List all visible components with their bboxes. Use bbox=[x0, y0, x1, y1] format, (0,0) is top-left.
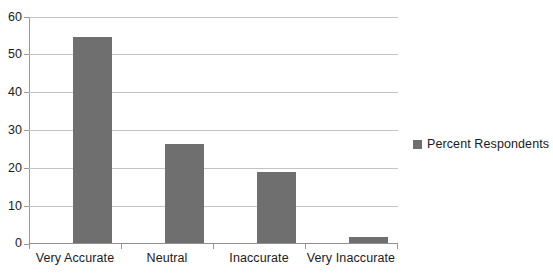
legend: Percent Respondents bbox=[413, 138, 549, 151]
x-axis-label-very-inaccurate: Very Inaccurate bbox=[301, 251, 401, 265]
bar-very-accurate[interactable] bbox=[73, 37, 112, 243]
bar-neutral[interactable] bbox=[165, 144, 204, 243]
x-axis-label-very-accurate: Very Accurate bbox=[29, 251, 121, 265]
x-axis-tick-mark-2 bbox=[213, 244, 214, 249]
bar-very-inaccurate[interactable] bbox=[349, 237, 388, 243]
y-axis-tick-label-10: 10 bbox=[0, 200, 22, 213]
plot-area bbox=[29, 17, 398, 243]
x-axis-tick-mark-3 bbox=[305, 244, 306, 249]
y-axis-tick-label-60: 60 bbox=[0, 11, 22, 24]
gridline-60 bbox=[29, 17, 398, 18]
y-axis-tick-label-20: 20 bbox=[0, 162, 22, 175]
x-axis-tick-mark-1 bbox=[121, 244, 122, 249]
x-axis-tick-mark-4 bbox=[397, 244, 398, 249]
bar-inaccurate[interactable] bbox=[257, 172, 296, 243]
legend-swatch-icon bbox=[413, 140, 422, 149]
y-axis-tick-label-40: 40 bbox=[0, 86, 22, 99]
x-axis-label-inaccurate: Inaccurate bbox=[213, 251, 305, 265]
x-axis-label-neutral: Neutral bbox=[121, 251, 213, 265]
bar-chart: 60 50 40 30 20 10 0 Very Accurate Neutra… bbox=[0, 0, 553, 280]
legend-label-percent-respondents: Percent Respondents bbox=[427, 138, 549, 151]
y-axis-tick-label-0: 0 bbox=[0, 237, 22, 250]
y-axis-tick-label-30: 30 bbox=[0, 124, 22, 137]
x-axis-tick-mark-0 bbox=[29, 244, 30, 249]
y-axis-tick-label-50: 50 bbox=[0, 48, 22, 61]
